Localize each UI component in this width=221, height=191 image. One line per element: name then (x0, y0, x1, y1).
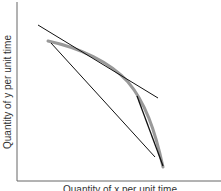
x-axis-label: Quantity of x per unit time (30, 184, 210, 191)
tangent-line-lower (137, 96, 163, 166)
tangent-line-upper (38, 25, 158, 98)
plot-area (0, 0, 221, 191)
curve (48, 41, 163, 167)
diagram: Quantity of y per unit time Quantity of … (0, 0, 221, 191)
y-axis-label: Quantity of y per unit time (2, 22, 14, 162)
